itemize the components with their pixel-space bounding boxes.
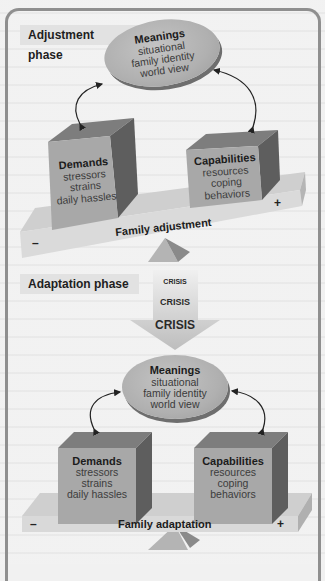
bidirectional-arrow-icon (0, 0, 325, 564)
